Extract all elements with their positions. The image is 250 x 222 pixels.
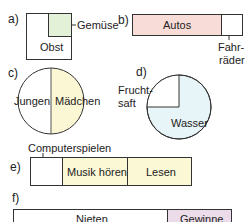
d-fruchtsaft-label-2: saft — [118, 97, 136, 109]
b-autos-label: Autos — [163, 19, 191, 31]
e-musik-label: Musik hören — [67, 166, 127, 178]
label-d: d) — [136, 66, 147, 78]
e-lesen-label: Lesen — [146, 166, 176, 178]
b-fahrraeder-bar — [222, 15, 243, 36]
d-wasser-label: Wasser — [171, 117, 208, 129]
b-fahrraeder-label-1: Fahr- — [218, 41, 244, 53]
label-c: c) — [8, 67, 18, 79]
label-e: e) — [10, 161, 21, 173]
label-f: f) — [12, 192, 19, 204]
a-obst-label: Obst — [40, 41, 63, 53]
f-nieten-label: Nieten — [76, 213, 108, 222]
a-gemuese-label: Gemüse — [77, 19, 119, 31]
d-fruchtsaft-label-1: Frucht- — [118, 84, 153, 96]
f-gewinne-label: Gewinne — [180, 213, 223, 222]
b-fahrraeder-label-2: räder — [219, 54, 245, 66]
label-a: a) — [8, 13, 19, 25]
c-jungen-label: Jungen — [14, 95, 50, 107]
c-maedchen-label: Mädchen — [55, 95, 100, 107]
diagram-shapes — [0, 0, 250, 222]
label-b: b) — [118, 14, 129, 26]
e-computerspielen-seg — [31, 158, 63, 186]
e-computerspielen-label: Computerspielen — [28, 142, 111, 154]
a-inner-square — [49, 14, 72, 37]
